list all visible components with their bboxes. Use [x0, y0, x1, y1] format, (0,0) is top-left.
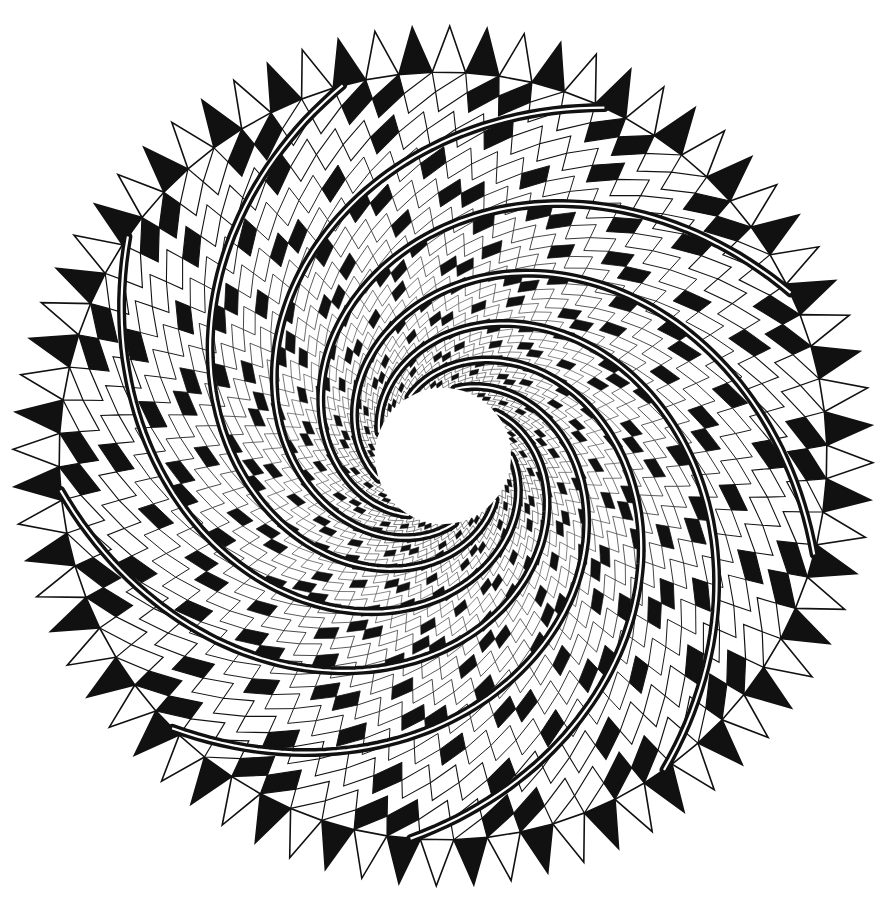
lattice-diamond	[389, 350, 398, 364]
lattice-diamond	[386, 527, 397, 532]
lattice-diamond	[550, 552, 559, 571]
lattice-diamond	[406, 329, 416, 344]
lattice-diamond	[172, 656, 214, 678]
lattice-diamond	[477, 651, 495, 677]
lattice-diamond	[467, 597, 480, 616]
lattice-diamond	[720, 434, 752, 460]
lattice-diamond	[206, 592, 240, 611]
lattice-diamond	[629, 656, 648, 694]
lattice-diamond	[425, 523, 432, 530]
lattice-diamond	[540, 561, 550, 581]
outer-tooth	[826, 445, 873, 479]
lattice-diamond	[717, 408, 751, 433]
lattice-diamond	[245, 426, 264, 443]
lattice-diamond	[392, 678, 413, 700]
lattice-diamond	[480, 593, 493, 612]
outer-tooth	[302, 50, 334, 99]
lattice-diamond	[247, 600, 278, 616]
lattice-diamond	[288, 219, 307, 253]
lattice-diamond	[536, 438, 548, 447]
lattice-diamond	[220, 611, 254, 629]
outer-tooth	[234, 80, 271, 129]
lattice-diamond	[457, 258, 474, 277]
lattice-diamond	[448, 531, 455, 540]
lattice-diamond	[453, 313, 465, 327]
lattice-diamond	[373, 763, 402, 794]
lattice-diamond	[482, 240, 502, 259]
lattice-diamond	[190, 278, 205, 313]
lattice-diamond	[519, 379, 533, 386]
lattice-diamond	[445, 372, 452, 380]
lattice-diamond	[470, 555, 479, 569]
lattice-diamond	[343, 121, 371, 161]
lattice-diamond	[265, 478, 285, 493]
lattice-diamond	[313, 461, 327, 472]
lattice-diamond	[166, 438, 194, 461]
lattice-diamond	[601, 492, 616, 509]
lattice-diamond	[159, 192, 180, 238]
outer-tooth	[37, 566, 86, 598]
lattice-diamond	[615, 560, 626, 585]
lattice-diamond	[744, 625, 764, 668]
lattice-diamond	[378, 492, 387, 497]
lattice-diamond	[565, 407, 582, 418]
lattice-diamond	[650, 365, 680, 384]
lattice-diamond	[666, 619, 682, 655]
lattice-diamond	[392, 399, 397, 408]
lattice-diamond	[621, 312, 652, 329]
lattice-diamond	[659, 270, 697, 291]
outer-tooth	[432, 26, 466, 73]
lattice-diamond	[350, 467, 361, 475]
lattice-diamond	[643, 685, 665, 727]
lattice-diamond	[600, 545, 610, 568]
lattice-diamond	[357, 315, 368, 335]
lattice-diamond	[666, 466, 690, 487]
lattice-diamond	[373, 360, 381, 374]
lattice-diamond	[572, 352, 594, 364]
lattice-diamond	[493, 696, 515, 728]
lattice-diamond	[603, 608, 618, 638]
lattice-diamond	[232, 757, 275, 777]
lattice-diamond	[203, 148, 228, 195]
lattice-diamond	[200, 508, 229, 528]
lattice-diamond	[353, 339, 363, 357]
lattice-diamond	[503, 379, 516, 385]
lattice-diamond	[689, 256, 731, 279]
lattice-diamond	[673, 290, 711, 312]
lattice-diamond	[622, 437, 643, 454]
lattice-diamond	[479, 630, 495, 653]
lattice-diamond	[427, 573, 438, 586]
outer-tooth	[751, 215, 799, 255]
lattice-diamond	[285, 331, 295, 354]
lattice-diamond	[495, 646, 513, 672]
lattice-diamond	[556, 359, 576, 370]
lattice-diamond	[433, 679, 454, 705]
outer-tooth	[520, 824, 553, 873]
lattice-diamond	[522, 593, 535, 615]
lattice-diamond	[412, 207, 433, 234]
lattice-diamond	[575, 295, 602, 308]
outer-tooth	[109, 685, 156, 727]
lattice-diamond	[243, 442, 263, 459]
lattice-diamond	[539, 340, 558, 349]
lattice-diamond	[244, 679, 280, 695]
lattice-diamond	[782, 385, 825, 417]
outer-tooth	[698, 720, 742, 765]
lattice-diamond	[775, 355, 819, 386]
lattice-diamond	[406, 278, 421, 298]
lattice-diamond	[402, 704, 425, 730]
lattice-diamond	[237, 716, 276, 732]
lattice-diamond	[99, 443, 135, 472]
lattice-diamond	[99, 472, 136, 500]
lattice-diamond	[588, 445, 605, 458]
lattice-diamond	[558, 566, 569, 588]
outer-tooth	[191, 757, 232, 804]
outer-tooth	[202, 100, 242, 148]
outer-tooth	[366, 31, 399, 80]
lattice-diamond	[438, 179, 461, 207]
lattice-diamond	[296, 519, 316, 531]
lattice-diamond	[302, 421, 315, 434]
lattice-diamond	[378, 285, 392, 307]
outer-tooth	[399, 27, 432, 75]
lattice-diamond	[601, 251, 634, 266]
